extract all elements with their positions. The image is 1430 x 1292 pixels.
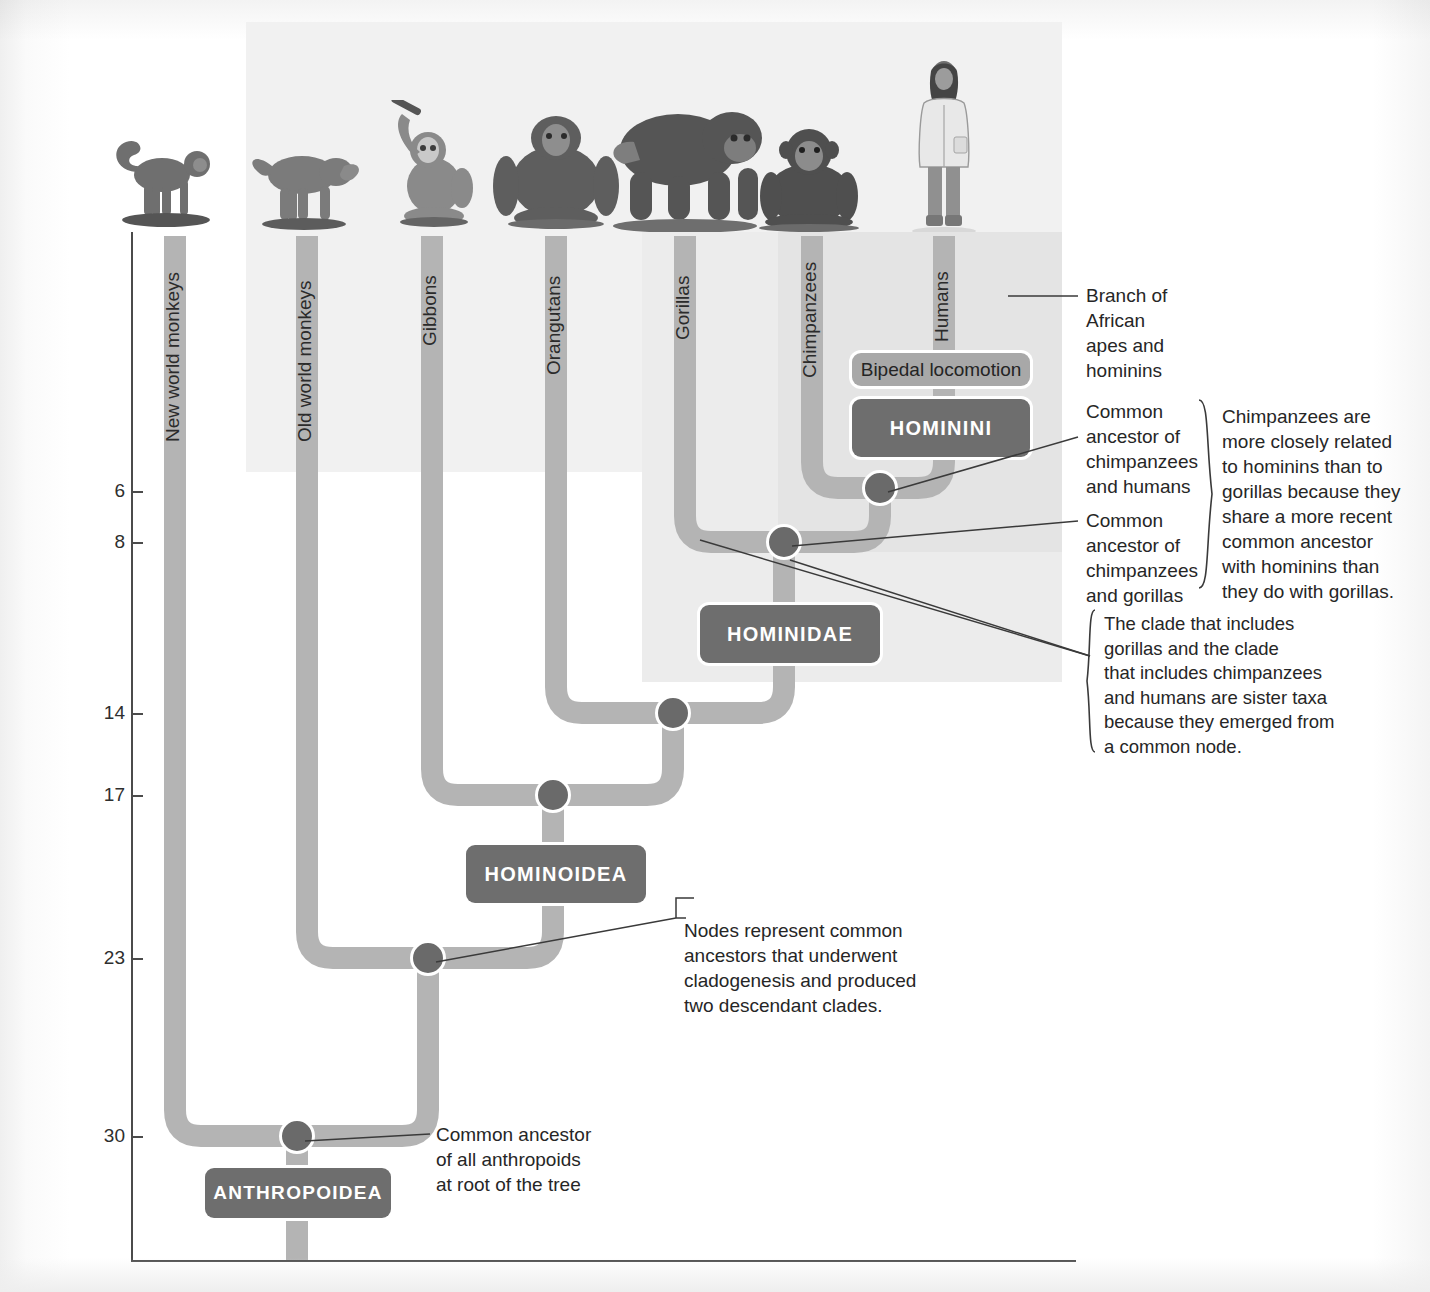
annotation-line: to hominins than to bbox=[1222, 454, 1427, 479]
annotation-line: of all anthropoids bbox=[436, 1147, 646, 1172]
annotation-sister-clade-note: The clade that includes gorillas and the… bbox=[1104, 612, 1354, 759]
tick-label-30: 30 bbox=[104, 1125, 125, 1147]
curly-brace-sister-taxa bbox=[1196, 398, 1216, 590]
annotation-line: with hominins than bbox=[1222, 554, 1427, 579]
annotation-line: common ancestor bbox=[1222, 529, 1427, 554]
tick-label-14: 14 bbox=[104, 702, 125, 724]
node-gibbon-split bbox=[535, 777, 571, 813]
clade-plate-hominini: HOMININI bbox=[852, 399, 1030, 457]
tip-label-old-world-monkeys: Old world monkeys bbox=[294, 280, 316, 442]
y-axis-line bbox=[131, 232, 133, 1262]
annotation-line: at root of the tree bbox=[436, 1172, 646, 1197]
tick-label-6: 6 bbox=[114, 480, 125, 502]
tick-mark-6 bbox=[131, 491, 143, 493]
annotation-sister-taxa-reason: Chimpanzees are more closely related to … bbox=[1222, 404, 1427, 604]
annotation-line: they do with gorillas. bbox=[1222, 579, 1427, 604]
tip-label-humans: Humans bbox=[931, 271, 953, 342]
annotation-line: share a more recent bbox=[1222, 504, 1427, 529]
annotation-african-apes-branch: Branch of African apes and hominins bbox=[1086, 283, 1216, 383]
annotation-line: more closely related bbox=[1222, 429, 1427, 454]
node-anthropoid-root bbox=[279, 1118, 315, 1154]
annotation-line: Chimpanzees are bbox=[1222, 404, 1427, 429]
annotation-line: Branch of bbox=[1086, 283, 1216, 308]
tick-mark-14 bbox=[131, 713, 143, 715]
figure-canvas: Bipedal locomotion HOMININI HOMINIDAE HO… bbox=[0, 0, 1430, 1292]
tick-mark-8 bbox=[131, 542, 143, 544]
clade-plate-hominidae: HOMINIDAE bbox=[700, 605, 880, 663]
annotation-line: gorillas and the clade bbox=[1104, 637, 1354, 662]
annotation-nodes-note: Nodes represent common ancestors that un… bbox=[684, 918, 964, 1018]
tick-label-17: 17 bbox=[104, 784, 125, 806]
node-chimp-human-ancestor bbox=[862, 470, 898, 506]
tip-label-orangutans: Orangutans bbox=[543, 276, 565, 375]
annotation-line: apes and bbox=[1086, 333, 1216, 358]
annotation-line: African bbox=[1086, 308, 1216, 333]
bracket-sister-clade-note bbox=[1086, 608, 1100, 754]
x-axis-line bbox=[131, 1260, 1076, 1262]
annotation-line: The clade that includes bbox=[1104, 612, 1354, 637]
tip-label-chimpanzees: Chimpanzees bbox=[799, 262, 821, 378]
annotation-line: cladogenesis and produced bbox=[684, 968, 964, 993]
annotation-line: ancestors that underwent bbox=[684, 943, 964, 968]
tick-label-23: 23 bbox=[104, 947, 125, 969]
tip-label-new-world-monkeys: New world monkeys bbox=[162, 272, 184, 442]
node-orangutan-split bbox=[655, 695, 691, 731]
annotation-line: because they emerged from bbox=[1104, 710, 1354, 735]
annotation-line: hominins bbox=[1086, 358, 1216, 383]
node-old-world-monkey-split bbox=[410, 940, 446, 976]
node-chimp-gorilla-ancestor bbox=[766, 524, 802, 560]
tick-mark-17 bbox=[131, 795, 143, 797]
annotation-line: Common ancestor bbox=[436, 1122, 646, 1147]
clade-plate-anthropoidea: ANTHROPOIDEA bbox=[205, 1168, 391, 1218]
annotation-root-note: Common ancestor of all anthropoids at ro… bbox=[436, 1122, 646, 1197]
annotation-line: a common node. bbox=[1104, 735, 1354, 760]
clade-plate-hominoidea: HOMINOIDEA bbox=[466, 845, 646, 903]
annotation-line: that includes chimpanzees bbox=[1104, 661, 1354, 686]
annotation-line: two descendant clades. bbox=[684, 993, 964, 1018]
tick-mark-23 bbox=[131, 958, 143, 960]
tick-label-8: 8 bbox=[114, 531, 125, 553]
annotation-line: gorillas because they bbox=[1222, 479, 1427, 504]
tick-mark-30 bbox=[131, 1136, 143, 1138]
tip-label-gorillas: Gorillas bbox=[672, 276, 694, 340]
annotation-line: and humans are sister taxa bbox=[1104, 686, 1354, 711]
trait-plate-bipedal-locomotion: Bipedal locomotion bbox=[852, 353, 1030, 386]
tip-label-gibbons: Gibbons bbox=[419, 275, 441, 346]
annotation-line: Nodes represent common bbox=[684, 918, 964, 943]
